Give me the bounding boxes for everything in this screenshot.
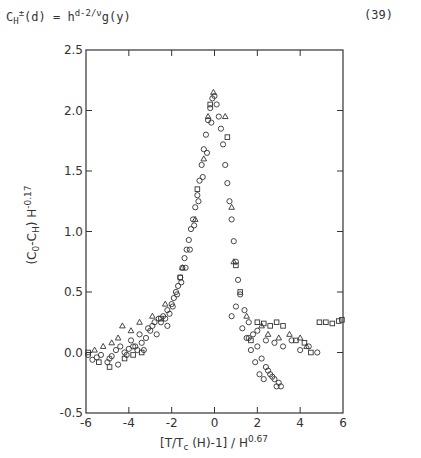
circle-marker	[242, 308, 247, 313]
square-marker	[281, 324, 286, 329]
circle-marker	[199, 162, 204, 167]
y-tick-label: 1.5	[64, 164, 83, 178]
y-tick-label: 0.5	[64, 285, 83, 299]
data-points	[86, 89, 345, 389]
triangle-marker	[115, 335, 121, 340]
tick-labels: -6-4-20246-0.50.00.51.01.52.02.5	[60, 43, 347, 430]
square-marker	[107, 365, 112, 370]
triangle-marker	[265, 331, 271, 336]
circle-marker	[203, 132, 208, 137]
circle-marker	[154, 332, 159, 337]
circle-marker	[139, 340, 144, 345]
circle-marker	[225, 181, 230, 186]
circle-marker	[204, 150, 209, 155]
circle-marker	[253, 360, 258, 365]
triangle-marker	[222, 114, 228, 119]
square-marker	[225, 135, 230, 140]
circle-marker	[315, 350, 320, 355]
square-marker	[317, 320, 322, 325]
square-marker	[274, 320, 279, 325]
circle-marker	[186, 237, 191, 242]
circle-marker	[250, 332, 255, 337]
circle-marker	[193, 205, 198, 210]
circle-marker	[280, 344, 285, 349]
square-marker	[97, 360, 102, 365]
circle-marker	[257, 372, 262, 377]
square-marker	[195, 187, 200, 192]
circle-marker	[223, 162, 228, 167]
square-marker	[131, 353, 136, 358]
circle-marker	[227, 199, 232, 204]
circle-marker	[192, 223, 197, 228]
x-tick-label: -2	[166, 416, 178, 430]
triangle-marker	[120, 323, 126, 328]
circle-marker	[98, 352, 103, 357]
circle-marker	[195, 193, 200, 198]
y-tick-label: -0.5	[60, 406, 83, 420]
circle-marker	[113, 347, 118, 352]
x-tick-label: 0	[211, 416, 219, 430]
circle-marker	[214, 102, 219, 107]
x-tick-label: 4	[296, 416, 304, 430]
y-tick-label: 0.0	[64, 346, 83, 360]
circle-marker	[231, 239, 236, 244]
triangle-marker	[128, 328, 134, 333]
triangle-marker	[162, 301, 168, 306]
circle-marker	[235, 277, 240, 282]
x-axis-title: [T/Tc (H)-1] / H0.67	[160, 434, 268, 452]
circle-marker	[248, 347, 253, 352]
circle-marker	[182, 256, 187, 261]
triangle-marker	[201, 156, 207, 161]
circle-marker	[137, 332, 142, 337]
scatter-plot: -6-4-20246-0.50.00.51.01.52.02.5 [T/Tc (…	[0, 0, 421, 458]
circle-marker	[233, 304, 238, 309]
x-tick-label: 2	[254, 416, 262, 430]
plot-frame	[86, 50, 343, 413]
triangle-marker	[137, 319, 143, 324]
x-tick-label: 6	[339, 416, 347, 430]
square-marker	[336, 319, 341, 324]
circle-marker	[255, 328, 260, 333]
circle-marker	[220, 142, 225, 147]
square-marker	[255, 320, 260, 325]
circle-marker	[216, 114, 221, 119]
y-axis-title: (C0-CH) H-0.17	[23, 185, 41, 264]
circle-marker	[255, 344, 260, 349]
circle-marker	[143, 335, 148, 340]
square-marker	[309, 350, 314, 355]
circle-marker	[208, 105, 213, 110]
circle-marker	[246, 320, 251, 325]
circle-marker	[116, 362, 121, 367]
circle-marker	[178, 275, 183, 280]
circle-marker	[261, 377, 266, 382]
triangle-marker	[244, 313, 250, 318]
circle-marker	[200, 174, 205, 179]
triangle-marker	[109, 340, 115, 345]
circle-marker	[165, 323, 170, 328]
circle-marker	[118, 344, 123, 349]
square-marker	[324, 320, 329, 325]
square-marker	[268, 324, 273, 329]
square-marker	[330, 321, 335, 326]
circle-marker	[240, 326, 245, 331]
triangle-marker	[229, 204, 235, 209]
circle-marker	[128, 338, 133, 343]
circle-marker	[179, 280, 184, 285]
axis-ticks	[86, 50, 343, 413]
triangle-marker	[287, 331, 293, 336]
triangle-marker	[92, 347, 98, 352]
triangle-marker	[276, 335, 282, 340]
circle-marker	[272, 340, 277, 345]
circle-marker	[187, 247, 192, 252]
circle-marker	[259, 356, 264, 361]
triangle-marker	[100, 343, 106, 348]
x-tick-label: -4	[123, 416, 135, 430]
circle-marker	[218, 126, 223, 131]
triangle-marker	[150, 313, 156, 318]
circle-marker	[298, 347, 303, 352]
circle-marker	[196, 199, 201, 204]
circle-marker	[263, 338, 268, 343]
y-tick-label: 2.0	[64, 104, 83, 118]
y-tick-label: 1.0	[64, 225, 83, 239]
y-tick-label: 2.5	[64, 43, 83, 57]
